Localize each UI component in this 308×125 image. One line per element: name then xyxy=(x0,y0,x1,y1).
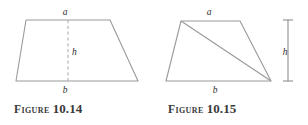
trapezoid-outline-left xyxy=(16,20,138,81)
figure-caption-10-15: Figure10.15 xyxy=(168,99,236,117)
label-b-right: b xyxy=(213,85,218,95)
label-h-right: h xyxy=(283,47,288,57)
caption-word-right: Figure xyxy=(168,103,204,115)
diagonal-line xyxy=(181,21,271,81)
label-h-left: h xyxy=(72,47,77,57)
caption-word-left: Figure xyxy=(14,103,50,115)
trapezoid-outline-right xyxy=(166,21,271,81)
label-a-right: a xyxy=(207,7,212,17)
caption-number-left: 10.14 xyxy=(53,101,83,116)
label-a-left: a xyxy=(63,7,68,17)
label-b-left: b xyxy=(63,85,68,95)
figure-10-15-drawing: a h b xyxy=(166,7,293,95)
caption-number-right: 10.15 xyxy=(207,101,237,116)
figure-10-14-drawing: a h b xyxy=(16,7,138,95)
figure-caption-10-14: Figure10.14 xyxy=(14,99,82,117)
